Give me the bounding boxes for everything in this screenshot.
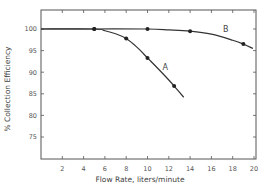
curve-label: A (162, 63, 168, 72)
x-tick-label: 12 (165, 165, 173, 173)
data-point (241, 42, 245, 46)
x-tick-label: 14 (186, 165, 194, 173)
data-point (146, 27, 150, 31)
data-point (92, 27, 96, 31)
x-axis-label: Flow Rate, liters/minute (95, 175, 185, 184)
x-tick-label: 16 (207, 165, 215, 173)
x-tick-label: 8 (124, 165, 128, 173)
y-tick-label: 85 (29, 90, 37, 98)
chart: 2468101214161820 7580859095100 AB Flow R… (0, 0, 271, 189)
curve-line (41, 29, 253, 49)
y-tick-label: 90 (29, 69, 37, 77)
x-tick-label: 18 (229, 165, 237, 173)
y-tick-label: 75 (29, 133, 37, 141)
data-point (188, 29, 192, 33)
y-tick-label: 95 (29, 47, 37, 55)
y-tick-label: 80 (29, 112, 37, 120)
series-a: A (41, 27, 184, 97)
y-axis-label: % Collection Efficiency (3, 46, 12, 132)
data-series: AB (41, 25, 253, 97)
x-tick-label: 2 (60, 165, 64, 173)
data-point (172, 84, 176, 88)
data-point (124, 37, 128, 41)
curve-label: B (223, 25, 229, 34)
x-tick-label: 20 (250, 165, 258, 173)
y-axis-ticks: 7580859095100 (25, 25, 256, 141)
series-b: B (41, 25, 253, 48)
y-tick-label: 100 (25, 25, 37, 33)
x-tick-label: 10 (143, 165, 151, 173)
x-tick-label: 4 (82, 165, 86, 173)
data-point (146, 56, 150, 60)
x-tick-label: 6 (103, 165, 107, 173)
